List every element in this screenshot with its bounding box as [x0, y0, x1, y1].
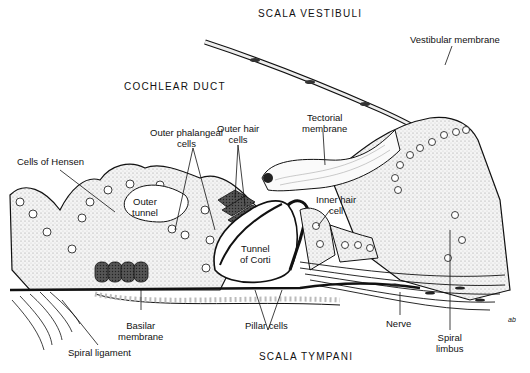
label-outer-phalangeal-line2: cells [150, 138, 223, 149]
label-spiral-limbus-line2: limbus [436, 343, 463, 354]
hensen-stripe [263, 173, 273, 183]
label-tectorial-membrane: Tectorial membrane [302, 112, 347, 134]
label-outer-phalangeal-cells: Outer phalangeal cells [150, 127, 223, 149]
label-inner-hair-line1: Inner hair [316, 194, 356, 205]
label-basilar-membrane: Basilar membrane [118, 320, 163, 342]
label-tunnel-line1: Tunnel [240, 243, 271, 254]
label-spiral-limbus: Spiral limbus [436, 332, 463, 354]
label-tectorial-line2: membrane [302, 123, 347, 134]
label-vestibular-membrane: Vestibular membrane [410, 34, 500, 45]
label-spiral-limbus-line1: Spiral [436, 332, 463, 343]
claudius-cells [95, 262, 148, 282]
label-cochlear-duct: COCHLEAR DUCT [124, 81, 226, 92]
label-nerve: Nerve [386, 318, 411, 329]
artist-signature: ab [508, 314, 516, 325]
organ-of-corti-diagram [0, 0, 530, 373]
label-cells-of-hensen: Cells of Hensen [17, 156, 84, 167]
label-outer-hair-cells: Outer hair cells [217, 123, 259, 145]
label-spiral-ligament: Spiral ligament [68, 347, 131, 358]
label-outer-tunnel-line1: Outer [132, 196, 158, 207]
label-basilar-line2: membrane [118, 331, 163, 342]
label-tunnel-of-corti: Tunnel of Corti [240, 243, 271, 265]
label-scala-tympani: SCALA TYMPANI [259, 351, 353, 362]
label-outer-tunnel-line2: tunnel [132, 207, 158, 218]
label-outer-hair-line1: Outer hair [217, 123, 259, 134]
label-outer-phalangeal-line1: Outer phalangeal [150, 127, 223, 138]
label-tectorial-line1: Tectorial [302, 112, 347, 123]
label-scala-vestibuli: SCALA VESTIBULI [258, 8, 362, 19]
spiral-ligament-shape [12, 292, 80, 350]
label-pillar-cells: Pillar cells [245, 320, 288, 331]
label-tunnel-line2: of Corti [240, 254, 271, 265]
label-outer-hair-line2: cells [217, 134, 259, 145]
label-basilar-line1: Basilar [118, 320, 163, 331]
label-inner-hair-line2: cell [316, 205, 356, 216]
label-outer-tunnel: Outer tunnel [132, 196, 158, 218]
label-inner-hair-cell: Inner hair cell [316, 194, 356, 216]
